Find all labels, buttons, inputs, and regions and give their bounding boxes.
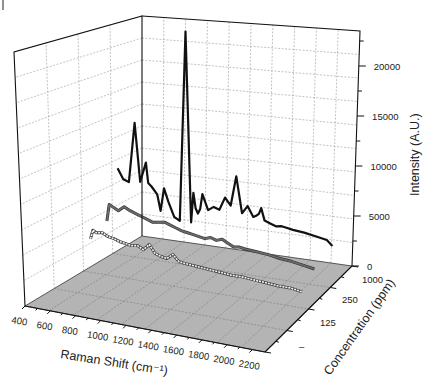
x-tick-label: 1600 bbox=[162, 343, 185, 357]
x-tick-label: 1200 bbox=[112, 333, 135, 347]
y-tick-label: 125 bbox=[320, 317, 336, 328]
x-tick-label: 800 bbox=[61, 324, 78, 337]
x-tick-label: 2000 bbox=[213, 353, 236, 367]
x-tick-label: 1400 bbox=[137, 338, 160, 352]
y-tick-label: 250 bbox=[342, 294, 358, 305]
z-tick-label: 5000 bbox=[369, 211, 390, 222]
x-tick-label: 2200 bbox=[238, 358, 261, 372]
x-tick-label: 400 bbox=[11, 314, 28, 327]
z-axis-title: Intensity (A.U.) bbox=[408, 113, 422, 196]
y-tick-label: 1000 bbox=[362, 274, 383, 285]
raman-3d-waterfall-chart: 4006008001000120014001600180020002200100… bbox=[0, 0, 434, 386]
z-tick-label: 10000 bbox=[370, 161, 396, 172]
z-tick-label: 0 bbox=[367, 261, 372, 272]
z-tick-label: 20000 bbox=[374, 61, 400, 72]
x-tick-label: 1800 bbox=[188, 348, 211, 362]
x-axis-title: Raman Shift (cm⁻¹) bbox=[60, 347, 169, 378]
x-tick-label: 600 bbox=[36, 319, 53, 332]
z-tick-label: 15000 bbox=[372, 111, 398, 122]
y-tick-label: – bbox=[299, 341, 305, 352]
x-tick-label: 1000 bbox=[86, 329, 109, 343]
